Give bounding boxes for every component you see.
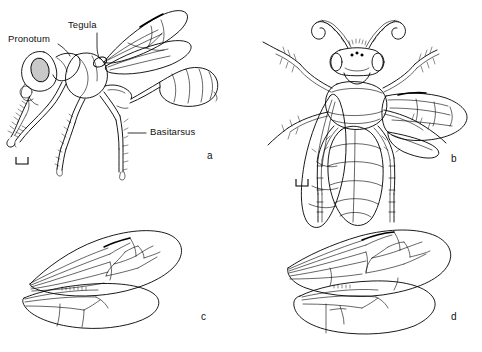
c-hw-cv-2	[84, 300, 100, 310]
b-leg-hr-spines	[382, 136, 400, 152]
panel-letter-a: a	[207, 150, 213, 161]
metanotum-line	[332, 119, 380, 124]
antenna-segment-marks	[8, 101, 26, 133]
b-leg-ml-tibia	[268, 128, 288, 145]
figure-linework	[0, 0, 482, 352]
tergite-1	[172, 74, 176, 102]
fw-left-cv-2	[312, 186, 338, 190]
eye-right	[372, 53, 384, 71]
foreleg-tibia	[28, 105, 48, 126]
tergite-2	[186, 69, 190, 103]
d-cv-10	[366, 264, 404, 273]
fw-right-cv-2	[433, 102, 435, 126]
c-cv-3	[136, 246, 153, 256]
b-leg-hl-femur-edge	[322, 128, 338, 160]
compound-eye	[29, 56, 52, 83]
forewing-left-b	[301, 94, 346, 227]
d-fw-subcosta	[289, 245, 366, 271]
clypeus-dorsal	[345, 68, 369, 71]
c-cv-5	[106, 264, 114, 276]
pronotum-dorsal-line	[332, 88, 382, 93]
forewing-vein-2	[108, 34, 162, 60]
labrum	[344, 73, 370, 84]
figure-plate: Pronotum Tegula Basitarsus a b c d	[0, 0, 482, 352]
label-pronotum: Pronotum	[8, 33, 50, 44]
tergite-b-3	[330, 181, 382, 186]
b-leg-hl-tibia-edge	[321, 160, 322, 194]
b-leg-mr-femur	[384, 110, 424, 126]
foreleg-claw	[15, 140, 17, 147]
hindleg-trochanter	[117, 106, 128, 108]
petiole-upper	[131, 82, 160, 99]
panel-letter-b: b	[451, 153, 457, 164]
tergite-b-5	[340, 212, 371, 217]
panel-c-wings	[23, 231, 182, 329]
c-hw-cv-3	[82, 310, 84, 327]
panel-letter-c: c	[201, 311, 206, 322]
b-leg-fl-femur-edge	[298, 68, 331, 92]
b-leg-hl-tibia	[317, 158, 318, 194]
d-cv-3	[400, 242, 422, 250]
d-fw-anal	[290, 274, 362, 279]
d-cv-7	[388, 242, 404, 247]
tergite-4	[209, 72, 213, 99]
petiole-lower	[130, 87, 160, 103]
hindwing-vein-1	[108, 49, 168, 67]
c-cv-8	[138, 246, 144, 258]
midleg-tarsus-edge	[62, 149, 66, 170]
b-leg-fl-tarsus	[263, 42, 278, 50]
b-leg-fr-femur	[383, 64, 415, 88]
c-cv-10	[106, 268, 138, 276]
hindwing-outline	[105, 41, 191, 74]
forewing-crossvein-5	[161, 20, 164, 42]
scutellum-line	[328, 111, 383, 116]
antenna-flagellum	[11, 122, 18, 137]
d-hindwing-outline	[294, 281, 435, 334]
antenna-right-curl	[392, 23, 406, 39]
b-leg-fl-spines	[280, 47, 296, 72]
c-cv-11	[138, 257, 157, 268]
c-hw-vein-3	[26, 306, 84, 310]
antenna-left-curl	[312, 23, 326, 39]
foreleg-femur	[48, 82, 62, 105]
b-leg-fl-tibia	[278, 50, 300, 64]
c-cv-7	[125, 246, 138, 252]
fw-right-vein-1	[388, 100, 448, 106]
fw-right-cv-1	[416, 99, 418, 121]
mandible	[29, 97, 38, 105]
d-hw-cv-1	[376, 297, 388, 308]
propodeum	[105, 85, 132, 99]
ocellus-left	[351, 54, 354, 57]
leader-pronotum	[58, 44, 70, 56]
fw-right-cv-3	[450, 107, 452, 126]
forewing-outline	[104, 11, 188, 63]
eye-left	[330, 53, 342, 71]
leader-tegula	[97, 33, 100, 59]
c-cv-9	[144, 252, 160, 258]
pronotum-ridge	[57, 58, 67, 72]
d-hw-cv-5	[330, 309, 346, 310]
mesosoma	[65, 53, 107, 98]
c-cv-12	[110, 262, 112, 280]
b-leg-hr-tibia-edge	[390, 160, 391, 194]
head-setae	[349, 39, 366, 45]
c-fw-subcosta	[31, 254, 110, 285]
panel-d-wings	[288, 230, 451, 334]
midleg-tibia	[61, 122, 70, 148]
hindleg-femur	[120, 116, 123, 146]
b-leg-hr-tibia	[394, 158, 395, 194]
antenna-tip	[7, 139, 15, 147]
fw-left-cv-3	[309, 204, 336, 208]
tergite-b-4	[334, 199, 378, 204]
b-leg-ml-femur	[288, 112, 328, 128]
c-hw-cv-1	[96, 297, 108, 308]
mesosoma-suture-2	[92, 56, 97, 81]
d-cv-8	[404, 242, 410, 257]
forewing-pterostigma	[140, 14, 163, 27]
d-fw-cubitus	[290, 261, 366, 276]
label-basitarsus: Basitarsus	[150, 126, 195, 137]
d-cv-13	[330, 268, 332, 286]
d-hamuli	[334, 285, 350, 288]
midleg-femur-edge	[75, 99, 85, 123]
foreleg-tibia-edge	[32, 107, 52, 128]
